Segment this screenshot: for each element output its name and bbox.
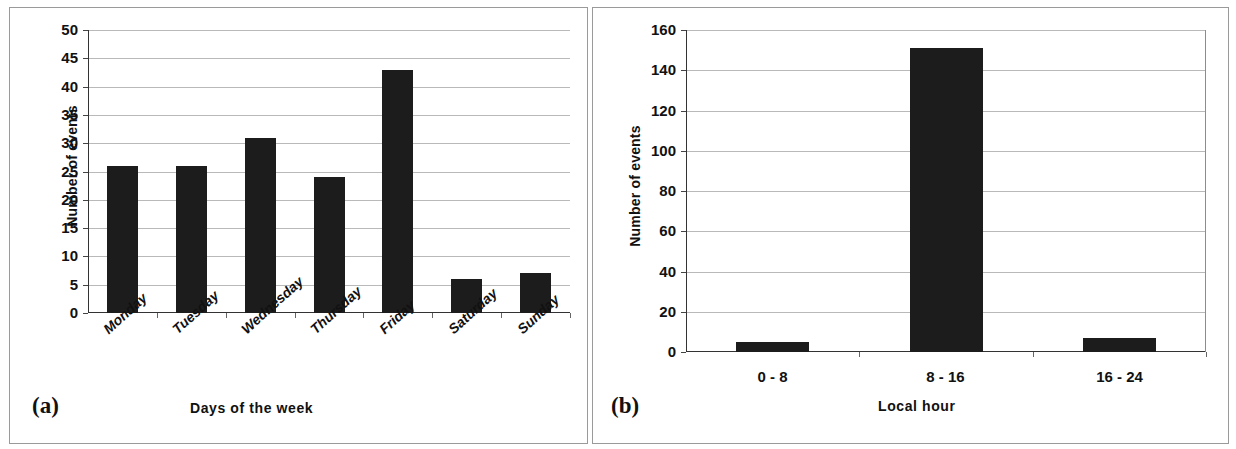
x-axis-title-b: Local hour bbox=[878, 398, 956, 414]
y-tick-label: 30 bbox=[52, 135, 78, 150]
bar bbox=[382, 70, 413, 313]
y-tick-label: 100 bbox=[640, 143, 676, 158]
x-axis-title-a: Days of the week bbox=[190, 400, 313, 416]
x-tick-mark bbox=[859, 352, 860, 357]
bar bbox=[910, 48, 983, 352]
x-tick-mark bbox=[1206, 352, 1207, 357]
x-tick-mark bbox=[1033, 352, 1034, 357]
y-tick-label: 160 bbox=[640, 22, 676, 37]
y-tick-label: 40 bbox=[640, 264, 676, 279]
plot-area-a: 05101520253035404550MondayTuesdayWednesd… bbox=[88, 30, 570, 313]
y-tick-label: 10 bbox=[52, 248, 78, 263]
x-tick-mark bbox=[226, 313, 227, 318]
x-tick-mark bbox=[570, 313, 571, 318]
chart-panel-b: (b) Number of events Local hour 02040608… bbox=[592, 7, 1229, 444]
bar bbox=[314, 177, 345, 313]
x-tick-label: 16 - 24 bbox=[1033, 368, 1206, 385]
x-tick-label: 8 - 16 bbox=[859, 368, 1032, 385]
y-tick-label: 20 bbox=[640, 304, 676, 319]
gridline bbox=[686, 30, 1206, 31]
y-tick-mark bbox=[681, 352, 686, 353]
x-tick-mark bbox=[157, 313, 158, 318]
x-tick-mark bbox=[432, 313, 433, 318]
y-tick-label: 40 bbox=[52, 79, 78, 94]
panel-label-b: (b) bbox=[611, 393, 639, 419]
y-axis-line bbox=[88, 30, 89, 313]
x-tick-mark bbox=[295, 313, 296, 318]
gridline bbox=[88, 115, 570, 116]
y-tick-label: 60 bbox=[640, 223, 676, 238]
gridline bbox=[88, 58, 570, 59]
bar bbox=[245, 138, 276, 313]
plot-area-b: 0204060801001201401600 - 88 - 1616 - 24 bbox=[686, 30, 1206, 352]
bar bbox=[736, 342, 809, 352]
y-tick-label: 0 bbox=[52, 305, 78, 320]
y-axis-line bbox=[686, 30, 687, 352]
x-tick-label: 0 - 8 bbox=[686, 368, 859, 385]
y-tick-label: 20 bbox=[52, 192, 78, 207]
y-tick-label: 50 bbox=[52, 22, 78, 37]
figure-canvas: (a) Number of events Days of the week 05… bbox=[0, 0, 1236, 449]
y-tick-label: 0 bbox=[640, 344, 676, 359]
gridline bbox=[88, 172, 570, 173]
gridline bbox=[88, 143, 570, 144]
bar bbox=[176, 166, 207, 313]
y-tick-mark bbox=[83, 313, 88, 314]
y-tick-label: 140 bbox=[640, 62, 676, 77]
y-tick-label: 35 bbox=[52, 107, 78, 122]
plot-border-right bbox=[1205, 30, 1206, 352]
chart-panel-a: (a) Number of events Days of the week 05… bbox=[9, 7, 588, 444]
bar bbox=[107, 166, 138, 313]
gridline bbox=[88, 30, 570, 31]
y-tick-label: 15 bbox=[52, 220, 78, 235]
y-tick-label: 25 bbox=[52, 164, 78, 179]
y-tick-label: 80 bbox=[640, 183, 676, 198]
x-tick-mark bbox=[363, 313, 364, 318]
y-tick-label: 5 bbox=[52, 277, 78, 292]
y-tick-label: 120 bbox=[640, 103, 676, 118]
x-tick-mark bbox=[501, 313, 502, 318]
panel-label-a: (a) bbox=[32, 393, 59, 419]
bar bbox=[1083, 338, 1156, 352]
y-tick-label: 45 bbox=[52, 50, 78, 65]
gridline bbox=[88, 87, 570, 88]
